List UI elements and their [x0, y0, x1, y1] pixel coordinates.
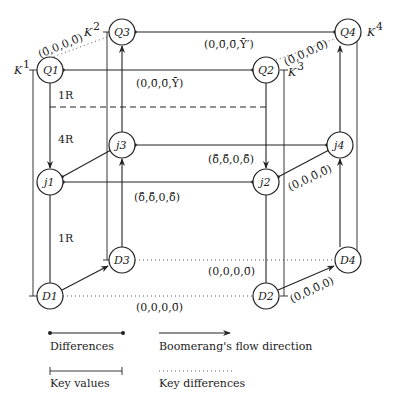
svg-text:D4: D4 [339, 254, 356, 267]
svg-text:2: 2 [93, 20, 100, 33]
svg-text:Q2: Q2 [258, 64, 274, 77]
svg-text:1R: 1R [58, 89, 74, 102]
svg-text:(0,0̄,0̄,Ȳ′): (0,0̄,0̄,Ȳ′) [204, 38, 254, 51]
node-j3: j3 [109, 132, 135, 158]
flow-arrows [50, 46, 340, 290]
svg-text:D1: D1 [41, 290, 58, 303]
svg-text:1R: 1R [58, 232, 74, 245]
svg-text:(0,0,0,0̄): (0,0,0,0̄) [208, 265, 255, 278]
key-line-k1 [29, 70, 37, 296]
svg-text:(0̄,0,0,0̄): (0̄,0,0,0̄) [282, 37, 330, 69]
svg-text:(0,0̄,0̄,Ȳ): (0,0̄,0̄,Ȳ) [136, 77, 183, 90]
node-j4: j4 [327, 132, 353, 158]
flow-d1-d3 [62, 266, 108, 290]
svg-text:Differences: Differences [50, 340, 114, 353]
svg-text:(δ̄,δ̄,0,δ̄): (δ̄,δ̄,0,δ̄) [208, 153, 254, 166]
node-q4: Q4 [335, 19, 361, 45]
svg-text:Boomerang's flow direction: Boomerang's flow direction [159, 340, 312, 353]
node-d1: D1 [37, 283, 63, 309]
svg-text:K: K [83, 26, 93, 39]
svg-text:1: 1 [23, 58, 30, 71]
svg-text:K: K [13, 64, 23, 77]
key-value-lines [29, 32, 361, 296]
svg-text:(0,0̄,0̄,0): (0,0̄,0̄,0) [288, 274, 336, 306]
diff-j1-j3 [62, 150, 111, 177]
node-q3: Q3 [109, 19, 135, 45]
node-j1: j1 [37, 169, 63, 195]
node-d4: D4 [335, 247, 361, 273]
svg-text:D3: D3 [113, 254, 130, 267]
svg-text:4: 4 [376, 20, 383, 33]
svg-text:Key differences: Key differences [159, 377, 246, 390]
svg-text:K: K [366, 26, 376, 39]
svg-text:Q1: Q1 [43, 64, 59, 77]
node-q2: Q2 [253, 57, 279, 83]
legend-key-differences: Key differences [159, 371, 246, 390]
svg-text:(δ̄,δ̄,0,δ̄): (δ̄,δ̄,0,δ̄) [134, 191, 180, 204]
node-q1: Q1 [37, 57, 63, 83]
node-j2: j2 [253, 169, 279, 195]
node-d3: D3 [109, 247, 135, 273]
boomerang-diagram: Q1 Q3 Q2 Q4 j1 j3 j2 j4 D1 D3 D2 D4 K1 K… [0, 0, 401, 409]
legend-key-values: Key values [50, 367, 122, 390]
svg-text:Q3: Q3 [114, 26, 130, 39]
key-line-k4 [353, 32, 361, 260]
legend: Differences Boomerang's flow direction K… [48, 331, 312, 390]
svg-text:Q4: Q4 [340, 26, 356, 39]
legend-flow: Boomerang's flow direction [159, 333, 312, 353]
node-d2: D2 [253, 283, 279, 309]
svg-text:4R: 4R [58, 133, 74, 146]
svg-text:(0,0,0̄,0̄): (0,0,0̄,0̄) [286, 162, 334, 194]
legend-differences: Differences [48, 331, 125, 353]
svg-text:(0̄,0,0,0̄): (0̄,0,0,0̄) [36, 31, 85, 61]
svg-text:D2: D2 [257, 290, 274, 303]
svg-text:Key values: Key values [50, 377, 110, 390]
svg-text:(0,0,0,0̄): (0,0,0,0̄) [136, 301, 183, 314]
